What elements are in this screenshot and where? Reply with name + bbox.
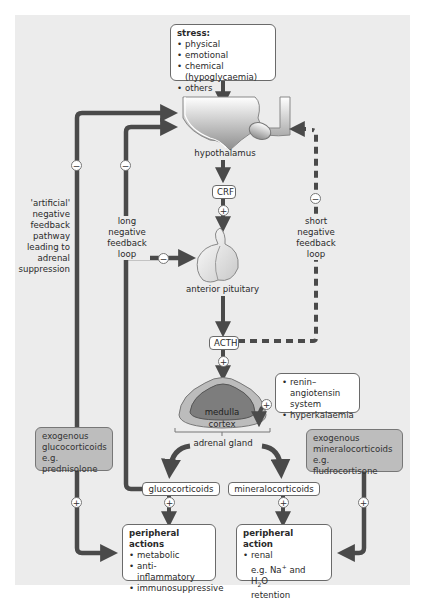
artificial-feedback-label: 'artificial' negative feedback pathway l… <box>18 198 70 275</box>
anterior-pituitary-graphic <box>197 228 238 282</box>
plus-sign: + <box>218 356 229 367</box>
crf-tag: CRF <box>212 185 236 199</box>
box-line: glucocorticoids <box>42 442 106 453</box>
label-line: pathway <box>18 231 70 242</box>
box-line: exogenous <box>42 431 106 442</box>
label-line: adrenal <box>18 253 70 264</box>
action-item: immunosuppressive <box>129 583 209 594</box>
minus-sign: − <box>71 160 82 171</box>
label-line: loop <box>104 249 150 260</box>
adrenal-gland-label: adrenal gland <box>185 438 261 449</box>
label-line: 'artificial' <box>18 198 70 209</box>
label-line: negative <box>18 209 70 220</box>
action-item: anti-inflammatory <box>129 561 209 583</box>
renal-example-line2: retention <box>243 590 325 601</box>
exogenous-mineralocorticoids-box: exogenous mineralocorticoids e.g. fludro… <box>306 429 403 472</box>
stress-item: emotional <box>177 50 269 61</box>
box-line: e.g. prednisolone <box>42 453 106 475</box>
label-line: negative <box>292 227 340 238</box>
renin-item: renin–angiotensin system <box>282 377 353 410</box>
stress-item: physical <box>177 39 269 50</box>
plus-sign: + <box>71 497 82 508</box>
renal-example: e.g. Na+ and H2O <box>243 561 325 590</box>
mineralocorticoids-tag: mineralocorticoids <box>228 482 320 496</box>
label-line: long <box>104 216 150 227</box>
stress-item: chemical (hypoglycaemia) <box>177 61 269 83</box>
peripheral-actions-box: peripheral actions metabolic anti-inflam… <box>122 524 216 581</box>
label-line: feedback <box>104 238 150 249</box>
label-line: feedback <box>18 220 70 231</box>
minus-sign: − <box>310 193 321 204</box>
label-line: loop <box>292 249 340 260</box>
label-line: suppression <box>18 264 70 275</box>
minus-sign: − <box>158 253 169 264</box>
short-feedback-label: short negative feedback loop <box>292 216 340 260</box>
text: e.g. Na <box>251 565 282 575</box>
box-line: e.g. fludrocortisone <box>313 455 396 477</box>
renin-box: renin–angiotensin system hyperkalaemia <box>275 373 360 413</box>
action-item: renal <box>243 550 325 561</box>
stress-title: stress: <box>177 28 269 39</box>
text: O <box>261 576 268 586</box>
peripheral-action-box: peripheral action renal e.g. Na+ and H2O… <box>236 524 332 581</box>
label-line: leading to <box>18 242 70 253</box>
exogenous-glucocorticoids-box: exogenous glucocorticoids e.g. prednisol… <box>35 427 113 471</box>
cortex-label: cortex <box>197 419 247 430</box>
box-line: exogenous <box>313 433 396 444</box>
box-line: mineralocorticoids <box>313 444 396 455</box>
plus-sign: + <box>261 399 272 410</box>
peripheral-action-title: peripheral action <box>243 528 325 550</box>
hypothalamus-label: hypothalamus <box>185 148 265 159</box>
glucocorticoids-tag: glucocorticoids <box>142 482 220 496</box>
minus-sign: − <box>120 160 131 171</box>
stress-item: others <box>177 83 269 94</box>
label-line: feedback <box>292 238 340 249</box>
action-item: metabolic <box>129 550 209 561</box>
stress-box: stress: physical emotional chemical (hyp… <box>170 24 276 81</box>
acth-tag: ACTH <box>209 336 239 350</box>
plus-sign: + <box>218 205 229 216</box>
plus-sign: + <box>164 497 175 508</box>
renin-item: hyperkalaemia <box>282 410 353 421</box>
plus-sign: + <box>278 497 289 508</box>
anterior-pituitary-label: anterior pituitary <box>175 284 270 295</box>
peripheral-actions-title: peripheral actions <box>129 528 209 550</box>
long-feedback-label: long negative feedback loop <box>104 216 150 260</box>
label-line: short <box>292 216 340 227</box>
plus-sign: + <box>358 497 369 508</box>
hypothalamus-graphic <box>183 97 290 150</box>
label-line: negative <box>104 227 150 238</box>
medulla-label: medulla <box>197 407 247 418</box>
